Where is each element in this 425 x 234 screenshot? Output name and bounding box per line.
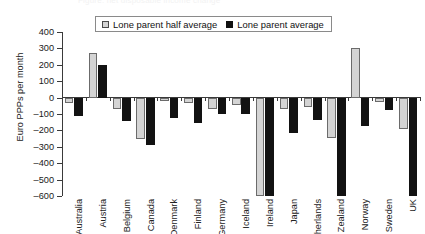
y-tick-label: –600 bbox=[12, 191, 54, 201]
y-tick-label: 0 bbox=[12, 93, 54, 103]
bar-full bbox=[409, 98, 418, 196]
y-tick-label: –500 bbox=[12, 175, 54, 185]
bar-full bbox=[337, 98, 346, 196]
bar-group bbox=[157, 32, 181, 196]
x-category-label: Canada bbox=[146, 199, 156, 231]
y-tick-mark bbox=[57, 196, 62, 197]
bar-full bbox=[313, 98, 322, 120]
bar-chart: Figure: net disposable income change Eur… bbox=[0, 0, 425, 234]
bar-group bbox=[86, 32, 110, 196]
bar-half bbox=[232, 98, 241, 105]
x-category-label: Norway bbox=[360, 199, 370, 230]
bar-group bbox=[62, 32, 86, 196]
x-category-label: Ireland bbox=[265, 199, 275, 227]
plot-area bbox=[62, 32, 420, 196]
x-tick-mark bbox=[62, 97, 63, 101]
y-tick-label: 400 bbox=[12, 27, 54, 37]
bar-group bbox=[181, 32, 205, 196]
bar-half bbox=[113, 98, 122, 109]
legend-item-full: Lone parent average bbox=[226, 19, 324, 30]
x-tick-mark bbox=[420, 97, 421, 101]
x-category-label: Iceland bbox=[241, 199, 251, 229]
legend-item-half: Lone parent half average bbox=[102, 19, 217, 30]
y-tick-label: –200 bbox=[12, 125, 54, 135]
bar-full bbox=[241, 98, 250, 114]
bar-full bbox=[170, 98, 179, 119]
bar-full bbox=[218, 98, 227, 114]
x-category-label: Netherlands bbox=[313, 199, 323, 234]
x-axis-category-labels: AustraliaAustriaBelgiumCanadaDenmarkFinl… bbox=[62, 199, 420, 234]
legend-swatch-half-icon bbox=[102, 21, 109, 28]
x-category-label: Finland bbox=[193, 199, 203, 229]
bar-full bbox=[122, 98, 131, 121]
legend-label-half: Lone parent half average bbox=[113, 19, 217, 30]
bar-group bbox=[348, 32, 372, 196]
bar-half bbox=[351, 48, 360, 97]
bar-half bbox=[136, 98, 145, 139]
legend-label-full: Lone parent average bbox=[237, 19, 324, 30]
bar-half bbox=[256, 98, 265, 196]
bar-full bbox=[74, 98, 83, 117]
y-tick-label: –100 bbox=[12, 109, 54, 119]
chart-legend: Lone parent half average Lone parent ave… bbox=[95, 16, 332, 32]
bar-full bbox=[289, 98, 298, 133]
x-category-label: Germany bbox=[217, 199, 227, 234]
bar-group bbox=[229, 32, 253, 196]
x-category-label: Belgium bbox=[122, 199, 132, 232]
bar-full bbox=[265, 98, 274, 196]
bar-full bbox=[385, 98, 394, 110]
bar-group bbox=[277, 32, 301, 196]
bar-half bbox=[280, 98, 289, 109]
cut-off-title: Figure: net disposable income change bbox=[78, 0, 258, 6]
bar-half bbox=[375, 98, 384, 102]
bar-full bbox=[98, 65, 107, 98]
bar-half bbox=[399, 98, 408, 129]
bar-half bbox=[208, 98, 217, 109]
bar-half bbox=[65, 98, 74, 103]
bar-group bbox=[134, 32, 158, 196]
y-axis-tick-labels: 4003002001000–100–200–300–400–500–600 bbox=[10, 32, 54, 196]
x-category-label: New Zealand bbox=[336, 199, 346, 234]
y-tick-label: 200 bbox=[12, 60, 54, 70]
y-tick-label: –300 bbox=[12, 142, 54, 152]
bar-group bbox=[396, 32, 420, 196]
bar-group bbox=[325, 32, 349, 196]
bar-full bbox=[361, 98, 370, 127]
bar-full bbox=[146, 98, 155, 146]
x-category-label: Japan bbox=[289, 199, 299, 224]
legend-swatch-full-icon bbox=[226, 21, 233, 28]
bar-half bbox=[327, 98, 336, 138]
bar-half bbox=[304, 98, 313, 107]
bar-full bbox=[194, 98, 203, 123]
x-category-label: Sweden bbox=[384, 199, 394, 232]
x-category-label: UK bbox=[408, 199, 418, 212]
bar-group bbox=[110, 32, 134, 196]
bar-half bbox=[184, 98, 193, 104]
y-tick-label: 300 bbox=[12, 43, 54, 53]
bar-half bbox=[160, 98, 169, 101]
bar-group bbox=[301, 32, 325, 196]
bar-group bbox=[205, 32, 229, 196]
bar-group bbox=[372, 32, 396, 196]
x-category-label: Australia bbox=[74, 199, 84, 234]
x-category-label: Austria bbox=[98, 199, 108, 228]
y-tick-label: 100 bbox=[12, 76, 54, 86]
bar-group bbox=[253, 32, 277, 196]
y-tick-label: –400 bbox=[12, 158, 54, 168]
bar-half bbox=[89, 53, 98, 98]
x-category-label: Denmark bbox=[169, 199, 179, 234]
